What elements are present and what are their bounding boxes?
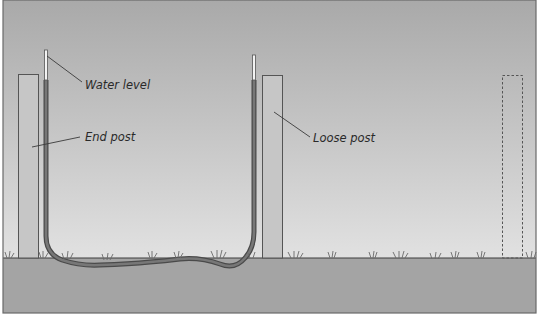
loose-post [263, 76, 283, 259]
end-post-label: End post [85, 130, 136, 144]
end-post [19, 75, 39, 259]
loose-post-label: Loose post [313, 131, 376, 145]
diagram-canvas: Water level End post Loose post [0, 0, 539, 325]
left-tube-top [45, 50, 48, 80]
right-tube-top [253, 55, 256, 80]
water-level-label: Water level [85, 78, 151, 92]
water-level-diagram: Water level End post Loose post [0, 0, 539, 325]
